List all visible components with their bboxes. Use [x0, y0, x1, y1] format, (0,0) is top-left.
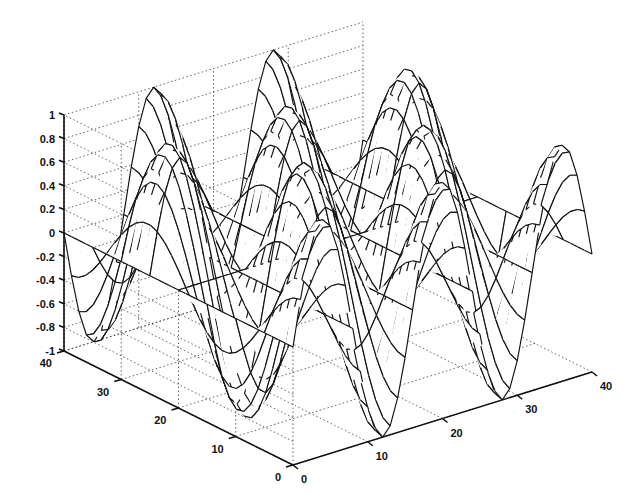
z-tick-label: -0.4 — [36, 274, 56, 286]
z-tick-label: -0.2 — [36, 251, 55, 263]
z-tick-label: 0.6 — [40, 156, 55, 168]
y-tick-label: 30 — [97, 386, 109, 398]
y-tick-label: 10 — [212, 443, 224, 455]
z-axis-tick-labels: -1-0.8-0.6-0.4-0.200.20.40.60.81 — [36, 109, 64, 357]
x-tick-label: 10 — [376, 450, 388, 462]
z-tick-label: 0.2 — [40, 203, 55, 215]
z-tick-label: 1 — [49, 109, 55, 121]
z-tick-label: -1 — [45, 345, 55, 357]
x-tick-label: 0 — [301, 473, 307, 485]
y-tick-label: 40 — [40, 357, 52, 369]
z-tick-label: 0.8 — [40, 133, 55, 145]
z-tick-label: 0.4 — [40, 180, 56, 192]
z-tick-label: 0 — [49, 227, 55, 239]
surface-plot: -1-0.8-0.6-0.4-0.200.20.40.60.81 0102030… — [0, 0, 643, 501]
z-tick-label: -0.8 — [36, 321, 55, 333]
x-axis-tick-labels: 010203040 — [293, 372, 612, 485]
y-tick-label: 0 — [275, 471, 281, 483]
surface-mesh — [64, 50, 592, 437]
x-tick-label: 30 — [525, 403, 537, 415]
x-tick-label: 40 — [600, 380, 612, 392]
y-tick-label: 20 — [154, 414, 166, 426]
x-tick-label: 20 — [451, 427, 463, 439]
z-tick-label: -0.6 — [36, 298, 55, 310]
